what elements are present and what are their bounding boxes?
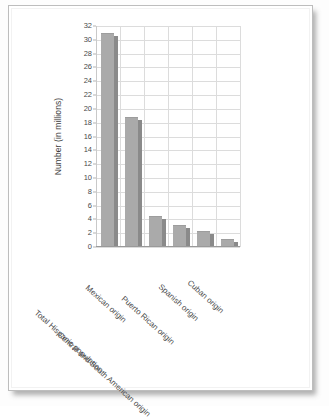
x-axis-category-labels: Total Hispanic populationMexican originC… [96,249,326,369]
bar-body [149,216,162,247]
bar [149,26,162,247]
gridline-vertical [240,26,241,247]
y-axis-tick-label: 22 [84,91,92,99]
y-axis-tick-label: 28 [84,50,92,58]
bar [101,26,114,247]
bar [125,26,138,247]
bar [173,26,186,247]
bar-body [101,33,114,247]
bar-shadow [186,228,190,247]
bar [197,26,210,247]
x-axis-category-label: Puerto Rican origin [120,295,176,346]
y-axis-tick-label: 10 [84,174,92,182]
y-axis-tick-label: 2 [88,229,92,237]
y-axis-tick-label: 14 [84,147,92,155]
y-axis-tick-label: 30 [84,36,92,44]
bar-shadow [162,219,166,247]
bar-body [197,231,210,247]
gridline-vertical [144,26,145,247]
gridline-vertical [192,26,193,247]
gridline-vertical [168,26,169,247]
gridline-vertical [120,26,121,247]
y-axis-tick-label: 32 [84,22,92,30]
y-axis-line [96,26,97,247]
y-axis-tick-label: 6 [88,202,92,210]
y-axis-tick-label: 0 [88,243,92,251]
y-axis-title: Number (in millions) [53,26,65,247]
bar-body [173,225,186,247]
bar-shadow [114,36,118,247]
plot-area: 02468101214161820222426283032 [96,26,240,247]
x-axis-category-label: Mexican origin [84,284,128,324]
y-axis-tick-label: 16 [84,133,92,141]
gridline-horizontal [96,247,240,248]
bar-chart-figure: Number (in millions) 0246810121416182022… [9,6,312,390]
y-axis-tick-label: 20 [84,105,92,113]
x-axis-category-label: Central and South American origin [56,331,152,418]
x-axis-line [96,246,240,247]
y-axis-tick-label: 24 [84,78,92,86]
y-axis-tick-label: 12 [84,160,92,168]
document-page: Number (in millions) 0246810121416182022… [8,5,313,391]
bar-body [125,117,138,247]
bar-shadow [138,120,142,247]
y-axis-tick-label: 8 [88,188,92,196]
gridline-vertical [216,26,217,247]
y-axis-tick-label: 4 [88,216,92,224]
y-axis-tick-label: 26 [84,64,92,72]
y-axis-tick-label: 18 [84,119,92,127]
bar [221,26,234,247]
